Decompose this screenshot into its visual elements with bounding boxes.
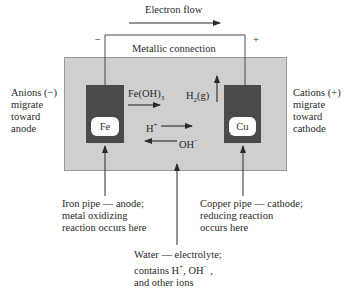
anode-electrode: Fe xyxy=(86,85,124,143)
cations-label: Cations (+) migrate toward cathode xyxy=(293,87,341,135)
negative-sign: − xyxy=(95,34,101,46)
metallic-connection-label: Metallic connection xyxy=(132,43,216,55)
anode-caption: Iron pipe — anode; metal oxidizing react… xyxy=(62,198,147,234)
hplus-label: H+ xyxy=(146,119,158,135)
anode-symbol: Fe xyxy=(91,117,119,136)
cathode-caption: Copper pipe — cathode; reducing reaction… xyxy=(200,198,303,234)
cathode-symbol: Cu xyxy=(229,117,256,136)
h2g-label: H2(g) xyxy=(186,90,209,106)
electron-flow-label: Electron flow xyxy=(145,4,202,16)
ohminus-label: OH− xyxy=(179,135,198,151)
anions-label: Anions (−) migrate toward anode xyxy=(11,87,57,135)
cathode-electrode: Cu xyxy=(224,85,261,143)
electrolyte-caption: Water — electrolyte; contains H+, OH− , … xyxy=(134,249,222,289)
feoh3-label: Fe(OH)3 xyxy=(128,88,164,104)
positive-sign: + xyxy=(253,34,259,46)
